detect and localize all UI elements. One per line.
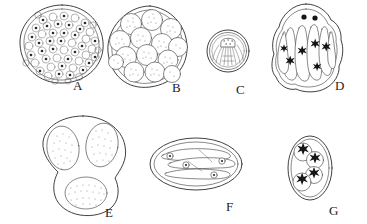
- panel-label-g: G: [329, 204, 339, 217]
- panel-b-sporocysts: [109, 10, 188, 83]
- panel-label-d: D: [335, 79, 345, 92]
- panel-c-striations: [213, 45, 243, 66]
- panel-label-c: C: [236, 83, 245, 96]
- panel-a-drawing: [20, 5, 103, 84]
- panel-g-sporocysts: [293, 143, 324, 191]
- panel-label-a: A: [73, 79, 83, 92]
- panel-d-polar-granules: [301, 14, 317, 20]
- panel-f-drawing: [150, 138, 242, 190]
- figure-plate: A B C D E F G: [0, 0, 367, 224]
- panel-b-drawing: [108, 6, 188, 87]
- panel-label-e: E: [105, 206, 113, 219]
- panel-e-drawing: [43, 116, 126, 216]
- panel-d-sporozoites: [278, 25, 336, 81]
- panel-d-drawing: [272, 4, 343, 92]
- panel-e-sporocysts: [44, 121, 121, 209]
- plate-drawing: [0, 0, 367, 224]
- panel-c-drawing: [207, 30, 249, 72]
- panel-g-drawing: [288, 136, 332, 200]
- panel-label-b: B: [172, 81, 181, 94]
- panel-label-f: F: [226, 200, 234, 213]
- panel-c-stipple: [224, 40, 233, 45]
